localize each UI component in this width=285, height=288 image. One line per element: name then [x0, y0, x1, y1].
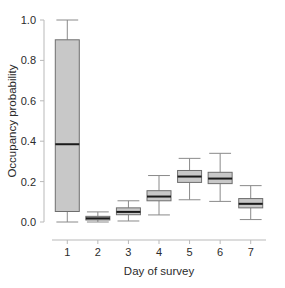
x-tick-label: 1 — [64, 246, 70, 258]
box-item — [55, 20, 79, 222]
x-tick-label: 3 — [125, 246, 131, 258]
box-item — [178, 158, 202, 199]
x-tick-label: 4 — [156, 246, 162, 258]
y-tick-label: 0.0 — [21, 216, 36, 228]
box-rect — [55, 40, 79, 212]
y-tick-label: 0.6 — [21, 95, 36, 107]
y-axis: 0.00.20.40.60.81.0 — [21, 14, 44, 228]
box-item — [86, 212, 110, 222]
box-item — [239, 186, 263, 220]
y-tick-label: 0.2 — [21, 176, 36, 188]
y-tick-label: 0.8 — [21, 54, 36, 66]
box-item — [147, 176, 171, 215]
box-series — [55, 20, 262, 222]
x-axis: 1234567 — [52, 240, 266, 258]
x-axis-title: Day of survey — [124, 265, 195, 277]
x-tick-label: 5 — [187, 246, 193, 258]
y-axis-title: Occupancy probability — [6, 64, 18, 177]
y-tick-label: 0.4 — [21, 135, 36, 147]
x-tick-label: 2 — [95, 246, 101, 258]
box-item — [116, 201, 140, 221]
x-tick-label: 7 — [248, 246, 254, 258]
x-tick-label: 6 — [217, 246, 223, 258]
y-tick-label: 1.0 — [21, 14, 36, 26]
box-item — [208, 153, 232, 201]
plot-canvas: 0.00.20.40.60.81.0 1234567 Occupancy pro… — [0, 0, 285, 288]
boxplot-figure: 0.00.20.40.60.81.0 1234567 Occupancy pro… — [0, 0, 285, 288]
